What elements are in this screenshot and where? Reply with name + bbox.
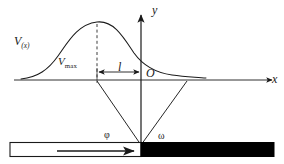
angle-label-omega: ω	[158, 131, 165, 141]
angle-label-phi: φ	[104, 130, 110, 140]
y-axis-label: y	[152, 4, 157, 16]
origin-label: O	[146, 67, 155, 79]
physics-diagram-figure: V(x) Vmax l O y x φ ω	[0, 0, 284, 164]
curve-label-vx: V(x)	[14, 35, 30, 50]
bar-solid-section	[141, 143, 274, 157]
diagram-canvas	[0, 0, 284, 164]
x-axis-label: x	[272, 73, 277, 85]
bar-hollow-section	[10, 143, 141, 157]
distance-label-l: l	[118, 61, 121, 73]
potential-curve	[21, 22, 206, 79]
peak-label-vmax: Vmax	[58, 56, 77, 70]
